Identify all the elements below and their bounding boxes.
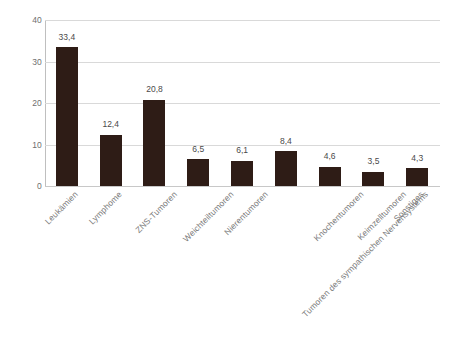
x-label-leukaemien: Leukämien xyxy=(43,190,79,226)
bar-chart: 40 30 20 10 0 33,4 12,4 20,8 xyxy=(0,0,451,341)
y-tick-label-40: 40 xyxy=(14,16,42,25)
bar-value-label: 20,8 xyxy=(146,85,163,94)
gridline-baseline-0 xyxy=(45,186,440,187)
bar-value-label: 4,6 xyxy=(324,152,336,161)
bar-value-label: 33,4 xyxy=(59,33,76,42)
bar-value-label: 6,1 xyxy=(236,146,248,155)
bar-leukaemien[interactable] xyxy=(56,47,78,186)
bar-slot-keimzelltumoren: 3,5 xyxy=(352,20,396,186)
bar-slot-knochentumoren: 4,6 xyxy=(308,20,352,186)
y-tick-label-10: 10 xyxy=(14,141,42,150)
bar-value-label: 8,4 xyxy=(280,137,292,146)
bar-value-label: 4,3 xyxy=(411,154,423,163)
bar-weichteiltumoren[interactable] xyxy=(187,159,209,186)
bar-tumoren-sympathisches-nervensystem[interactable] xyxy=(275,151,297,186)
y-tick-label-0: 0 xyxy=(14,182,42,191)
bar-value-label: 12,4 xyxy=(102,120,119,129)
bar-slot-weichteiltumoren: 6,5 xyxy=(176,20,220,186)
bar-zns-tumoren[interactable] xyxy=(143,100,165,186)
bar-lymphome[interactable] xyxy=(100,135,122,187)
bar-knochentumoren[interactable] xyxy=(319,167,341,186)
bar-slot-zns-tumoren: 20,8 xyxy=(133,20,177,186)
bar-nierentumoren[interactable] xyxy=(231,161,253,186)
x-label-zns-tumoren: ZNS-Tumoren xyxy=(134,190,179,235)
x-axis-labels: Leukämien Lymphome ZNS-Tumoren Weichteil… xyxy=(45,190,440,340)
bar-keimzelltumoren[interactable] xyxy=(362,172,384,187)
bar-slot-leukaemien: 33,4 xyxy=(45,20,89,186)
bar-value-label: 6,5 xyxy=(192,145,204,154)
bar-slot-tumoren-sympathisches-nervensystem: 8,4 xyxy=(264,20,308,186)
bar-slot-lymphome: 12,4 xyxy=(89,20,133,186)
y-tick-label-20: 20 xyxy=(14,99,42,108)
plot-area: 33,4 12,4 20,8 6,5 6,1 8,4 xyxy=(45,20,440,186)
bar-slot-sonstiges: 4,3 xyxy=(395,20,439,186)
y-tick-label-30: 30 xyxy=(14,58,42,67)
x-label-lymphome: Lymphome xyxy=(87,190,123,226)
bar-value-label: 3,5 xyxy=(368,157,380,166)
bar-sonstiges[interactable] xyxy=(406,168,428,186)
bar-slot-nierentumoren: 6,1 xyxy=(220,20,264,186)
bars-layer: 33,4 12,4 20,8 6,5 6,1 8,4 xyxy=(45,20,440,186)
